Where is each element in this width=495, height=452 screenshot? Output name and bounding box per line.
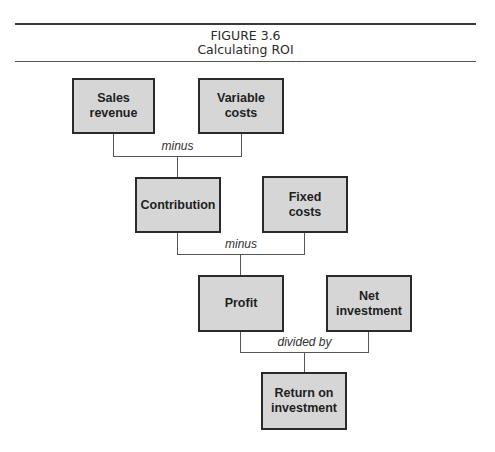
connector-line [177, 156, 178, 177]
figure-number: FIGURE 3.6 [15, 29, 476, 43]
node-return-on-investment: Return on investment [261, 372, 347, 430]
figure-header: FIGURE 3.6 Calculating ROI [15, 29, 476, 57]
node-contribution: Contribution [135, 177, 221, 233]
connector-line [304, 352, 305, 372]
operator-minus-1: minus [113, 139, 242, 153]
connector-line [177, 254, 305, 255]
connector-line [240, 254, 241, 275]
node-profit: Profit [198, 275, 284, 332]
operator-divided-by: divided by [240, 335, 369, 349]
node-sales-revenue: Sales revenue [72, 78, 155, 134]
figure-title: Calculating ROI [15, 43, 476, 57]
node-fixed-costs: Fixed costs [262, 176, 348, 233]
operator-minus-2: minus [177, 237, 305, 251]
header-bottom-rule [15, 61, 476, 62]
header-top-rule [15, 23, 476, 25]
node-net-investment: Net investment [326, 275, 412, 332]
node-variable-costs: Variable costs [198, 78, 284, 134]
